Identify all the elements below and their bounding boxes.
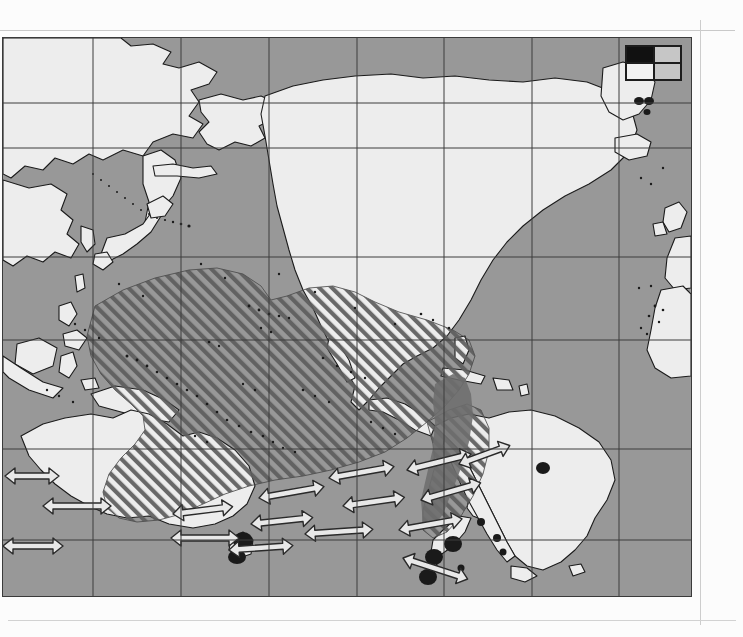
map-legend-key bbox=[625, 45, 682, 81]
land-aleutians bbox=[153, 164, 217, 178]
land-taiwan bbox=[75, 274, 85, 292]
colony-marker bbox=[477, 518, 485, 526]
legend-quadrant-top-left bbox=[626, 46, 654, 63]
legend-quadrant-bottom-right bbox=[654, 63, 682, 80]
colony-marker bbox=[644, 109, 651, 115]
colony-marker bbox=[444, 536, 462, 552]
page-right-rule bbox=[700, 20, 701, 625]
legend-quadrant-bottom-left bbox=[626, 63, 654, 80]
map-canvas bbox=[3, 38, 691, 596]
distribution-map-plate bbox=[2, 37, 692, 597]
page-top-rule bbox=[0, 30, 735, 31]
colony-marker bbox=[644, 97, 654, 105]
colony-marker bbox=[500, 549, 507, 556]
land-caribbean-islets bbox=[519, 384, 529, 396]
land-nz-indonesia-islets bbox=[81, 378, 99, 390]
page-bottom-rule bbox=[8, 620, 736, 621]
colony-marker bbox=[536, 462, 550, 474]
legend-quadrant-top-right bbox=[654, 46, 682, 63]
colony-marker bbox=[634, 97, 644, 105]
colony-marker bbox=[493, 534, 501, 542]
